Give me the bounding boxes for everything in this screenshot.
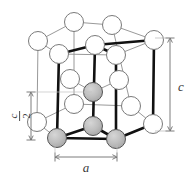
dimension-label-c-over-2: c 2 (7, 111, 32, 121)
atom-shaded (107, 130, 126, 149)
atom-open (50, 45, 69, 64)
atom-open (110, 71, 129, 90)
hcp-crystal-figure: c c 2 a (0, 0, 190, 179)
crystal-structure-svg: c c 2 a (0, 0, 190, 179)
atom-shaded (84, 117, 103, 136)
bond-pillar-right (153, 40, 154, 124)
atom-open (61, 70, 80, 89)
atom-open (107, 46, 126, 65)
dimension-label-c: c (178, 79, 184, 94)
atom-open (122, 97, 141, 116)
dimension-label-a: a (83, 160, 90, 175)
c-over-2-denominator: 2 (20, 113, 32, 119)
atom-open (145, 31, 164, 50)
atom-open (86, 36, 105, 55)
pillar-left (37, 41, 38, 122)
c-over-2-numerator: c (7, 113, 19, 118)
atom-open (65, 13, 84, 32)
atom-open (103, 16, 122, 35)
bond-pillar-frontleft (57, 54, 59, 138)
atom-layer-bottom (28, 95, 163, 149)
atom-open (65, 95, 84, 114)
atom-shaded (48, 129, 67, 148)
atom-open (29, 32, 48, 51)
